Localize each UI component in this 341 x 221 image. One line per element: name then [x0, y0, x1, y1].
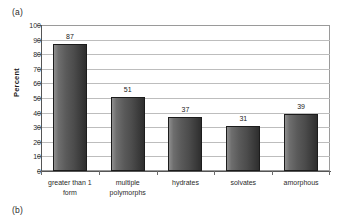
bar-value-label: 87	[66, 33, 74, 40]
category-label-line: amorphous	[272, 178, 330, 188]
bar[interactable]	[168, 117, 202, 171]
category-axis-labels: greater than 1formmultiplepolymorphshydr…	[41, 178, 330, 208]
x-axis-tick-mark	[99, 171, 100, 175]
category-label: greater than 1form	[41, 178, 99, 197]
bar-group: 37	[157, 25, 215, 171]
bar-chart-figure: (a) 1009080706050403020100 Percent 87513…	[0, 0, 341, 221]
bar-value-label: 37	[182, 106, 190, 113]
y-axis-ticks: 1009080706050403020100	[0, 0, 41, 221]
x-axis-tick-mark	[329, 171, 330, 175]
x-axis-tick-mark	[214, 171, 215, 175]
category-label: multiplepolymorphs	[99, 178, 157, 197]
bars-layer: 8751373139	[41, 25, 330, 171]
category-label: amorphous	[272, 178, 330, 188]
x-axis-ticks	[41, 171, 331, 176]
y-axis-title: Percent	[12, 53, 21, 113]
bar-group: 39	[272, 25, 330, 171]
bar[interactable]	[226, 126, 260, 171]
x-axis-tick-mark	[41, 171, 42, 175]
figure-part-b-label: (b)	[12, 205, 23, 215]
bar-value-label: 51	[124, 86, 132, 93]
category-label-line: form	[41, 188, 99, 198]
bar[interactable]	[53, 44, 87, 171]
bar[interactable]	[284, 114, 318, 171]
x-axis-tick-mark	[157, 171, 158, 175]
category-label-line: hydrates	[157, 178, 215, 188]
bar-group: 87	[41, 25, 99, 171]
x-axis-tick-mark	[272, 171, 273, 175]
bar-value-label: 39	[297, 103, 305, 110]
bar[interactable]	[111, 97, 145, 171]
category-label-line: multiple	[99, 178, 157, 188]
category-label-line: solvates	[214, 178, 272, 188]
category-label-line: greater than 1	[41, 178, 99, 188]
bar-value-label: 31	[239, 115, 247, 122]
category-label-line: polymorphs	[99, 188, 157, 198]
category-label: solvates	[214, 178, 272, 188]
category-label: hydrates	[157, 178, 215, 188]
bar-group: 51	[99, 25, 157, 171]
bar-group: 31	[214, 25, 272, 171]
